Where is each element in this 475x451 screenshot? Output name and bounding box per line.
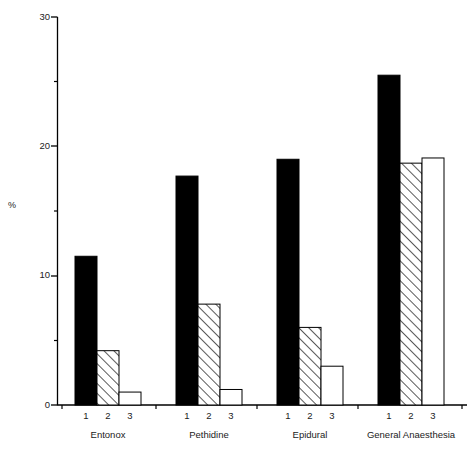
bar-general-anaesthesia-2: [400, 163, 422, 405]
x-sub-label-epidural-3: 3: [322, 410, 342, 421]
x-group-label-general-anaesthesia: General Anaesthesia: [361, 429, 461, 440]
bar-epidural-1: [277, 159, 299, 405]
bar-epidural-3: [321, 366, 343, 405]
x-sub-label-general-anaesthesia-2: 2: [401, 410, 421, 421]
x-sub-label-general-anaesthesia-3: 3: [423, 410, 443, 421]
bar-chart: % 30 20 10 0: [0, 0, 475, 451]
bar-epidural-2: [299, 327, 321, 405]
bar-entonox-3: [119, 392, 141, 405]
x-group-label-entonox: Entonox: [78, 429, 138, 440]
bar-general-anaesthesia-1: [378, 75, 400, 405]
x-group-label-epidural: Epidural: [280, 429, 340, 440]
bar-entonox-1: [75, 256, 97, 405]
x-sub-label-pethidine-2: 2: [199, 410, 219, 421]
x-sub-label-pethidine-1: 1: [177, 410, 197, 421]
bar-entonox-2: [97, 351, 119, 405]
x-sub-label-entonox-2: 2: [98, 410, 118, 421]
bar-pethidine-3: [220, 389, 242, 405]
x-sub-label-epidural-2: 2: [300, 410, 320, 421]
bar-pethidine-2: [198, 304, 220, 405]
x-sub-label-entonox-3: 3: [120, 410, 140, 421]
bar-general-anaesthesia-3: [422, 158, 444, 405]
x-sub-label-general-anaesthesia-1: 1: [379, 410, 399, 421]
x-sub-label-pethidine-3: 3: [221, 410, 241, 421]
bar-pethidine-1: [176, 176, 198, 405]
plot-area: [0, 0, 475, 451]
x-group-label-pethidine: Pethidine: [179, 429, 239, 440]
x-sub-label-epidural-1: 1: [278, 410, 298, 421]
x-sub-label-entonox-1: 1: [76, 410, 96, 421]
